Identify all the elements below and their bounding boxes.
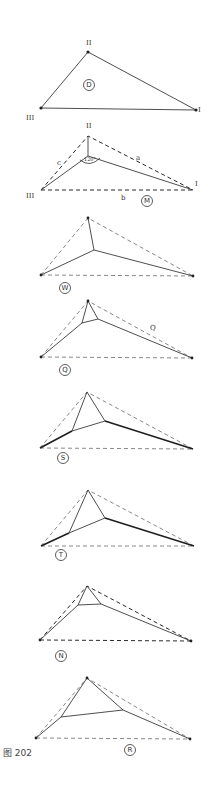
figure-label-r: R xyxy=(128,746,133,754)
steiner-tree-diagram: II III I D II III I c a b 120° M W xyxy=(0,0,208,785)
figure-w: W xyxy=(40,217,195,294)
vertex-label-i: I xyxy=(198,106,201,114)
figure-t: T xyxy=(41,490,194,561)
figure-label-w: W xyxy=(62,284,69,292)
figure-r: R xyxy=(35,677,192,756)
figure-s: S xyxy=(40,392,193,464)
vertex-label-iii: III xyxy=(26,114,35,122)
side-label-b: b xyxy=(121,194,126,202)
angle-label: 120° xyxy=(84,156,97,162)
side-label-q: Q xyxy=(150,324,156,332)
figure-label-s: S xyxy=(61,454,66,462)
figure-m: II III I c a b 120° M xyxy=(26,122,198,207)
figure-caption: 图 202 xyxy=(3,746,32,759)
vertex-label-iii: III xyxy=(26,192,35,200)
vertex-label-i: I xyxy=(195,180,198,188)
vertex-label-ii: II xyxy=(86,122,92,130)
figure-label-t: T xyxy=(58,551,64,559)
vertex-label-ii: II xyxy=(86,39,92,47)
figure-label-d: D xyxy=(86,81,91,89)
side-label-c: c xyxy=(57,159,61,167)
figure-d: II III I D xyxy=(26,39,201,122)
figure-label-m: M xyxy=(144,197,150,205)
side-label-a: a xyxy=(136,154,140,162)
figure-label-n: N xyxy=(58,652,63,660)
figure-q: Q Q xyxy=(40,300,194,376)
figure-label-q: Q xyxy=(62,366,68,374)
figure-n: N xyxy=(39,586,193,662)
